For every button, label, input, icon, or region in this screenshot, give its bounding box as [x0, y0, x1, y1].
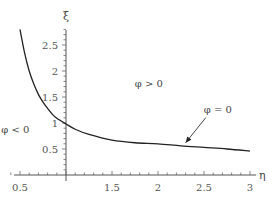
y-tick-label: 0.5 [42, 144, 58, 155]
x-tick-label: 0.5 [12, 182, 28, 193]
x-tick-label: 2.5 [196, 182, 212, 193]
phase-boundary-chart: 0.51.522.53 0.511.522.5 η ξ φ < 0 φ > 0 … [0, 0, 275, 200]
x-axis-label: η [259, 169, 266, 182]
x-tick-label: 1.5 [104, 182, 120, 193]
x-tick-label: 2 [155, 182, 161, 193]
x-tick-label: 3 [247, 182, 253, 193]
y-axis-label: ξ [63, 10, 69, 23]
y-tick-labels: 0.511.522.5 [42, 40, 58, 155]
x-tick-labels: 0.51.522.53 [12, 182, 253, 193]
axes: 0.51.522.53 0.511.522.5 η ξ [11, 10, 266, 193]
x-axis-ticks [11, 171, 250, 175]
y-tick-label: 2.5 [42, 40, 58, 51]
y-axis-ticks [62, 29, 66, 169]
y-tick-label: 2 [52, 66, 58, 77]
region-label-phi-negative: φ < 0 [1, 124, 29, 135]
region-label-phi-positive: φ > 0 [135, 78, 163, 89]
arrow-head-icon [186, 136, 192, 142]
curve-label-phi-zero: φ = 0 [204, 104, 232, 115]
y-tick-label: 1.5 [42, 92, 58, 103]
